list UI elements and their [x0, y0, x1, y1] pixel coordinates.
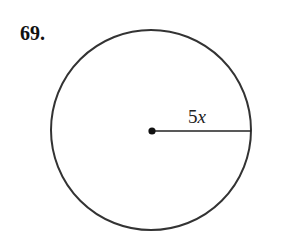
circle-figure: 5x	[0, 0, 286, 232]
radius-label: 5x	[188, 106, 207, 127]
radius-label-coefficient: 5	[188, 106, 198, 127]
center-point	[148, 127, 155, 134]
radius-label-variable: x	[197, 106, 207, 127]
